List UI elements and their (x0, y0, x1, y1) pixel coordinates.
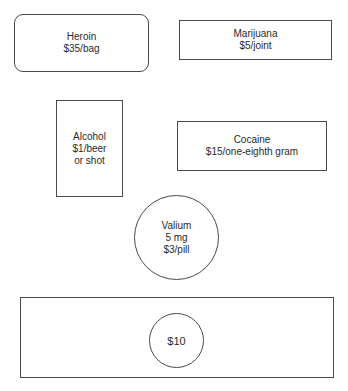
budget-amount: $10 (167, 335, 185, 347)
alcohol-box: Alcohol $1/beer or shot (56, 100, 123, 197)
marijuana-box: Marijuana $5/joint (179, 20, 332, 60)
alcohol-label: Alcohol (73, 131, 106, 143)
budget-coin-circle: $10 (149, 313, 204, 368)
heroin-price: $35/bag (63, 43, 99, 55)
valium-circle: Valium 5 mg $3/pill (134, 195, 219, 280)
alcohol-price-line1: $1/beer (73, 143, 107, 155)
cocaine-box: Cocaine $15/one-eighth gram (177, 121, 327, 171)
heroin-box: Heroin $35/bag (14, 14, 149, 72)
marijuana-label: Marijuana (234, 28, 278, 40)
marijuana-price: $5/joint (239, 40, 271, 52)
alcohol-price-line2: or shot (74, 155, 105, 167)
valium-dose: 5 mg (165, 232, 187, 244)
valium-label: Valium (162, 220, 192, 232)
valium-price: $3/pill (163, 244, 189, 256)
cocaine-label: Cocaine (234, 134, 271, 146)
cocaine-price: $15/one-eighth gram (206, 146, 298, 158)
heroin-label: Heroin (67, 31, 96, 43)
